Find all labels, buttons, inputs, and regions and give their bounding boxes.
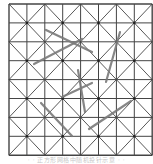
cell-diagonal xyxy=(134,61,152,80)
cell-diagonal xyxy=(27,117,45,136)
cell-diagonal xyxy=(45,23,63,42)
cell-diagonal xyxy=(27,80,45,99)
cell-diagonal xyxy=(134,42,152,61)
cell-diagonal xyxy=(63,4,81,23)
cell-diagonal xyxy=(99,80,117,99)
cell-diagonal xyxy=(27,42,45,61)
cell-diagonal xyxy=(81,4,99,23)
grid-node-dot xyxy=(133,22,136,25)
grid-node-dot xyxy=(26,135,29,138)
grid-node-dot xyxy=(97,22,100,25)
cell-diagonal xyxy=(81,61,99,80)
cell-diagonal xyxy=(27,23,45,42)
cell-diagonal xyxy=(116,61,134,80)
grid-node-dot xyxy=(133,97,136,100)
cell-diagonal xyxy=(134,23,152,42)
cell-diagonal xyxy=(45,117,63,136)
grid-node-dot xyxy=(133,59,136,62)
grid-node-dot xyxy=(26,22,29,25)
cell-diagonal xyxy=(116,136,134,155)
cell-diagonal xyxy=(27,136,45,155)
cell-diagonal xyxy=(81,117,99,136)
cell-diagonal xyxy=(27,99,45,118)
cell-diagonal xyxy=(99,4,117,23)
cell-diagonal xyxy=(116,117,134,136)
cell-diagonal xyxy=(45,136,63,155)
cell-diagonal xyxy=(45,4,63,23)
cell-diagonal xyxy=(9,136,27,155)
cell-diagonal xyxy=(45,99,63,118)
cell-diagonal xyxy=(116,42,134,61)
grid-node-dot xyxy=(61,22,64,25)
grid-node-dot xyxy=(26,97,29,100)
cell-diagonal xyxy=(81,23,99,42)
cell-diagonal xyxy=(116,80,134,99)
cell-diagonal xyxy=(134,4,152,23)
cell-diagonal xyxy=(27,4,45,23)
cell-diagonal xyxy=(9,80,27,99)
cell-diagonal xyxy=(99,136,117,155)
cell-diagonal xyxy=(134,80,152,99)
cell-diagonal xyxy=(134,117,152,136)
cell-diagonal xyxy=(134,99,152,118)
grid-node-dot xyxy=(26,59,29,62)
cell-diagonal xyxy=(9,117,27,136)
grid-node-dot xyxy=(133,135,136,138)
cell-diagonal xyxy=(63,136,81,155)
cell-diagonal xyxy=(116,4,134,23)
grid-node-dot xyxy=(97,59,100,62)
cell-diagonal xyxy=(45,80,63,99)
cell-diagonal xyxy=(99,99,117,118)
cell-diagonal xyxy=(63,117,81,136)
cell-diagonal xyxy=(134,136,152,155)
needle xyxy=(46,30,92,52)
needle xyxy=(41,103,72,136)
grid-node-dot xyxy=(97,135,100,138)
needle xyxy=(106,32,120,82)
cell-diagonal xyxy=(9,42,27,61)
grid-node-dot xyxy=(61,59,64,62)
grid-node-dot xyxy=(97,97,100,100)
cell-diagonal xyxy=(99,23,117,42)
cell-diagonal xyxy=(9,99,27,118)
grid-needle-diagram xyxy=(0,0,153,164)
cell-diagonal xyxy=(9,4,27,23)
figure-caption: · · 正方形网格中随机投针示意 · · xyxy=(0,156,153,164)
cell-diagonal xyxy=(9,23,27,42)
cell-diagonal xyxy=(45,61,63,80)
cell-diagonal xyxy=(9,61,27,80)
cell-diagonal xyxy=(81,136,99,155)
needle xyxy=(62,83,92,97)
cell-diagonal xyxy=(63,99,81,118)
grid-node-dot xyxy=(61,135,64,138)
